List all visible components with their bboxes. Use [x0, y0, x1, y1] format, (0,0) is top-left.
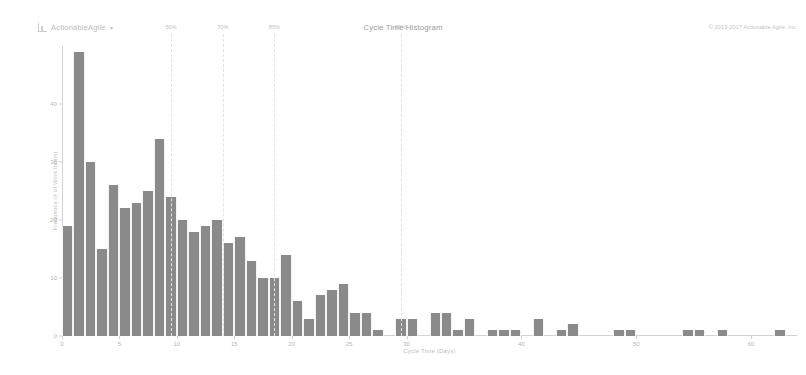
x-axis-tick-mark: [119, 336, 120, 339]
app-header: ActionableAgile ▾ Cycle Time Histogram ©…: [0, 0, 806, 40]
histogram-bar[interactable]: [257, 278, 268, 336]
histogram-bar[interactable]: [682, 330, 693, 336]
percentile-line: [223, 34, 224, 336]
percentile-label: 95%: [395, 24, 406, 30]
histogram-bar[interactable]: [246, 261, 257, 336]
cycle-time-histogram-app: ActionableAgile ▾ Cycle Time Histogram ©…: [0, 0, 806, 375]
histogram-bar[interactable]: [625, 330, 636, 336]
histogram-bar[interactable]: [142, 191, 153, 336]
percentile-line: [171, 34, 172, 336]
plot-area: Frequency (# of Work Items) Cycle Time (…: [62, 46, 797, 336]
histogram-bar[interactable]: [717, 330, 728, 336]
histogram-bar[interactable]: [96, 249, 107, 336]
x-axis-title: Cycle Time (Days): [62, 348, 797, 354]
histogram-bar[interactable]: [533, 319, 544, 336]
histogram-bar[interactable]: [372, 330, 383, 336]
histogram-bar[interactable]: [452, 330, 463, 336]
histogram-bar[interactable]: [280, 255, 291, 336]
histogram-bar[interactable]: [200, 226, 211, 336]
histogram-bar[interactable]: [774, 330, 785, 336]
histogram-bar[interactable]: [234, 237, 245, 336]
x-axis-tick-mark: [407, 336, 408, 339]
percentile-line: [401, 34, 402, 336]
histogram-bar[interactable]: [108, 185, 119, 336]
histogram-bar[interactable]: [510, 330, 521, 336]
x-axis-tick-mark: [234, 336, 235, 339]
histogram-bar[interactable]: [441, 313, 452, 336]
x-axis-tick-mark: [62, 336, 63, 339]
histogram-bar[interactable]: [211, 220, 222, 336]
x-axis-tick-mark: [177, 336, 178, 339]
histogram-bar[interactable]: [613, 330, 624, 336]
histogram-bar[interactable]: [303, 319, 314, 336]
histogram-bar[interactable]: [694, 330, 705, 336]
x-axis-tick-mark: [636, 336, 637, 339]
histogram-bar[interactable]: [188, 232, 199, 336]
histogram-bar[interactable]: [85, 162, 96, 336]
histogram-bar[interactable]: [223, 243, 234, 336]
histogram-bar[interactable]: [326, 290, 337, 336]
histogram-bar[interactable]: [361, 313, 372, 336]
histogram-bar[interactable]: [131, 203, 142, 336]
percentile-label: 50%: [165, 24, 176, 30]
x-axis-tick-mark: [292, 336, 293, 339]
x-axis-tick-mark: [349, 336, 350, 339]
percentile-line: [274, 34, 275, 336]
histogram-bar[interactable]: [292, 301, 303, 336]
x-axis-tick-mark: [521, 336, 522, 339]
histogram-bar[interactable]: [349, 313, 360, 336]
percentile-label: 70%: [217, 24, 228, 30]
histogram-bar[interactable]: [177, 220, 188, 336]
histogram-bar[interactable]: [430, 313, 441, 336]
histogram-bar[interactable]: [498, 330, 509, 336]
x-axis-tick-mark: [751, 336, 752, 339]
histogram-bar[interactable]: [73, 52, 84, 336]
histogram-bar[interactable]: [154, 139, 165, 336]
histogram-bar[interactable]: [119, 208, 130, 336]
percentile-label: 85%: [269, 24, 280, 30]
histogram-bar[interactable]: [487, 330, 498, 336]
histogram-bar[interactable]: [315, 295, 326, 336]
histogram-bar[interactable]: [62, 226, 73, 336]
histogram-bar[interactable]: [464, 319, 475, 336]
histogram-bar[interactable]: [567, 324, 578, 336]
histogram-bar[interactable]: [407, 319, 418, 336]
histogram-bar[interactable]: [338, 284, 349, 336]
histogram-bars: [62, 46, 797, 336]
copyright-notice: © 2013-2017 Actionable Agile, Inc: [709, 24, 796, 30]
histogram-bar[interactable]: [556, 330, 567, 336]
